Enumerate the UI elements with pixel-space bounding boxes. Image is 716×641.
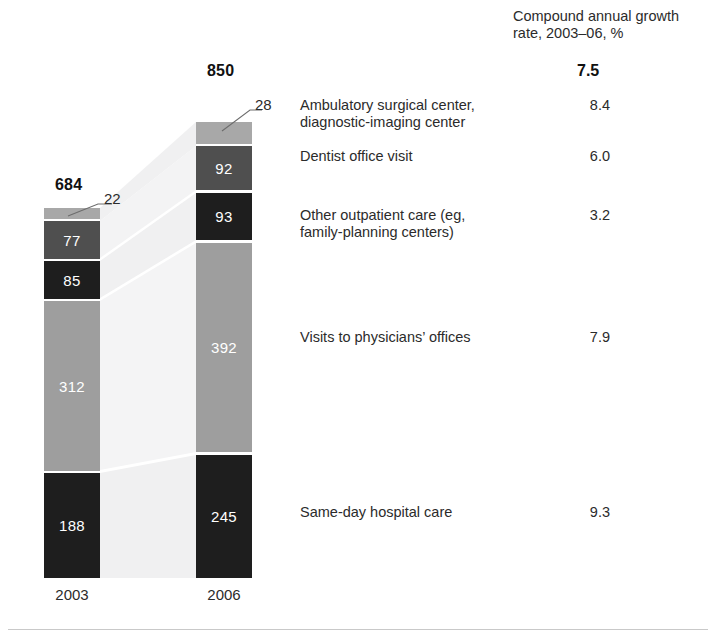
legend-label-ambulatory-line1: Ambulatory surgical center, (300, 97, 515, 114)
bottom-divider (8, 629, 708, 630)
legend-label-ambulatory-line2: diagnostic-imaging center (300, 114, 515, 131)
legend-value-same-day-hospital: 9.3 (570, 504, 610, 520)
legend-label-other-outpatient-line2: family-planning centers) (300, 224, 515, 241)
legend-label-physician-visits-line1: Visits to physicians’ offices (300, 329, 515, 346)
legend-label-other-outpatient: Other outpatient care (eg, family-planni… (300, 207, 515, 241)
legend-label-dentist: Dentist office visit (300, 148, 515, 165)
legend-label-same-day-hospital: Same-day hospital care (300, 504, 515, 521)
legend-value-other-outpatient: 3.2 (570, 207, 610, 223)
legend-label-ambulatory: Ambulatory surgical center, diagnostic-i… (300, 97, 515, 131)
legend-column: Ambulatory surgical center, diagnostic-i… (0, 0, 716, 600)
legend-value-dentist: 6.0 (570, 148, 610, 164)
legend-value-physician-visits: 7.9 (570, 329, 610, 345)
legend-label-dentist-line1: Dentist office visit (300, 148, 515, 165)
legend-label-physician-visits: Visits to physicians’ offices (300, 329, 515, 346)
legend-label-other-outpatient-line1: Other outpatient care (eg, (300, 207, 515, 224)
legend-label-same-day-hospital-line1: Same-day hospital care (300, 504, 515, 521)
legend-value-ambulatory: 8.4 (570, 97, 610, 113)
